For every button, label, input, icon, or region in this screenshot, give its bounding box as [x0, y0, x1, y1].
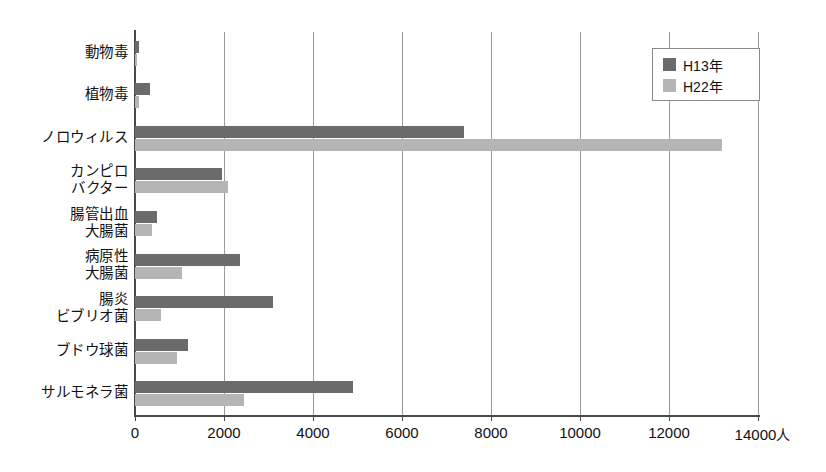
bar-h22: [135, 267, 182, 279]
bar-h13: [135, 126, 464, 138]
category-label: 動物毒: [8, 44, 128, 61]
legend-swatch-icon-h13: [663, 58, 676, 71]
legend-swatch-icon-h22: [663, 79, 676, 92]
legend-item-h13: H13年: [663, 54, 759, 75]
x-tick-label: 10000: [559, 424, 601, 441]
category-label: 病原性 大腸菌: [8, 248, 128, 282]
gridline: [402, 32, 403, 415]
bar-h13: [135, 254, 240, 266]
category-label: 腸管出血 大腸菌: [8, 206, 128, 240]
category-label: ブドウ球菌: [8, 342, 128, 359]
bar-h13: [135, 211, 157, 223]
category-label: カンピロ バクター: [8, 163, 128, 197]
category-label: サルモネラ菌: [8, 384, 128, 401]
x-axis-unit: 人: [776, 427, 790, 443]
category-label: ノロウィルス: [8, 129, 128, 146]
category-label: 植物毒: [8, 86, 128, 103]
bar-h13: [135, 296, 273, 308]
x-axis-line: [134, 415, 760, 417]
gridline: [313, 32, 314, 415]
legend-label-h22: H22年: [683, 76, 723, 96]
bar-h13: [135, 381, 353, 393]
bar-h22: [135, 139, 722, 151]
bar-h13: [135, 41, 139, 53]
bar-h22: [135, 309, 161, 321]
bar-h22: [135, 224, 152, 236]
bar-h22: [135, 96, 139, 108]
category-label: 腸炎 ビブリオ菌: [8, 291, 128, 325]
bar-h22: [135, 54, 137, 66]
gridline: [580, 32, 581, 415]
bar-h13: [135, 339, 188, 351]
x-tick-label: 4000: [296, 424, 329, 441]
legend: H13年 H22年: [652, 48, 760, 101]
x-tick-label: 6000: [385, 424, 418, 441]
bar-h22: [135, 352, 177, 364]
gridline: [224, 32, 225, 415]
x-tick-label: 0: [131, 424, 139, 441]
x-tick-label: 8000: [474, 424, 507, 441]
gridline: [491, 32, 492, 415]
legend-item-h22: H22年: [663, 75, 759, 96]
bar-h13: [135, 83, 150, 95]
legend-label-h13: H13年: [683, 55, 723, 75]
bar-h22: [135, 394, 244, 406]
bar-h22: [135, 181, 228, 193]
x-tick-label: 12000: [648, 424, 690, 441]
x-tick-label: 2000: [207, 424, 240, 441]
x-tick-label: 14000人: [735, 424, 791, 444]
bar-chart: 02000400060008000100001200014000人 動物毒植物毒…: [0, 0, 826, 472]
bar-h13: [135, 168, 222, 180]
